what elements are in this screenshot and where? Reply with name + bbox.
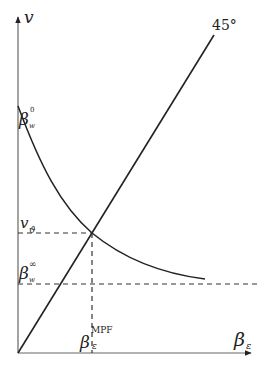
- beta-w0-sub: w: [29, 122, 35, 130]
- y-axis-label: v: [24, 7, 34, 27]
- beta-mpf-sub: ε: [92, 341, 97, 351]
- beta-w0-sup: 0: [30, 106, 34, 114]
- beta-w-curve: [18, 106, 205, 279]
- beta-winf-label: β: [18, 263, 29, 283]
- v-theta-label: v: [20, 214, 29, 232]
- beta-mpf-label: β: [79, 332, 90, 352]
- beta-mpf-sup: MPF: [91, 325, 113, 335]
- beta-winf-sub: w: [29, 276, 35, 284]
- x-axis-label: β: [233, 328, 245, 350]
- beta-w0-label: β: [18, 109, 29, 129]
- diagram-canvas: v 45° β 0 w v ϑ β ∞ w β MPF ε β ε: [0, 0, 269, 372]
- v-theta-sub: ϑ: [29, 225, 36, 235]
- line-45-degree: [18, 35, 214, 353]
- line-45-label: 45°: [212, 17, 237, 33]
- x-axis-label-sub: ε: [246, 340, 251, 351]
- beta-winf-sup: ∞: [29, 259, 37, 269]
